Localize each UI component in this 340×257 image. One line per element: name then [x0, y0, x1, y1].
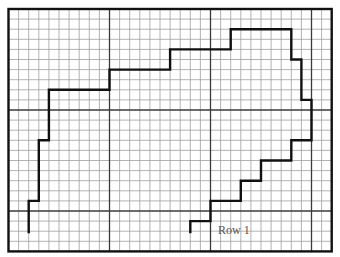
graph-paper-diagram — [0, 0, 340, 257]
row-1-label: Row 1 — [218, 224, 250, 236]
minor-grid-lines — [9, 9, 332, 251]
